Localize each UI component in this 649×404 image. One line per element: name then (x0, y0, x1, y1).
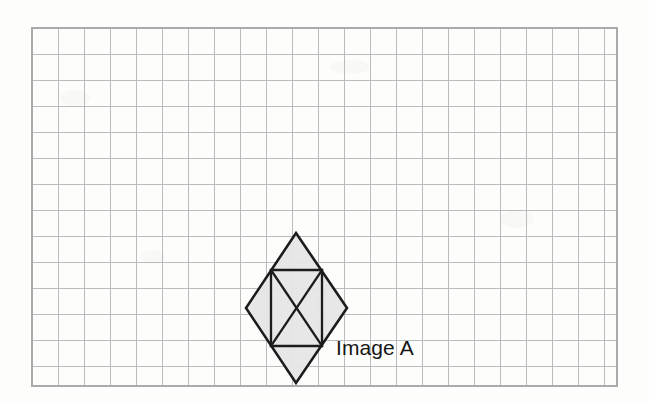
figure-label: Image A (336, 337, 414, 358)
worksheet-page: Image A (0, 0, 649, 404)
figure-canvas (0, 0, 649, 404)
